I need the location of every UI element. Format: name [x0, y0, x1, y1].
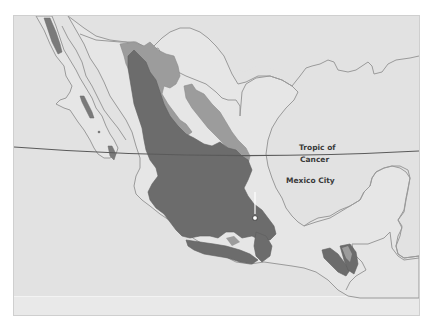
mexico-city-marker: [253, 216, 258, 221]
mexico-city-label: Mexico City: [286, 176, 335, 185]
tropic-label-line1: Tropic of: [299, 143, 336, 152]
mexico-relief-map: [0, 0, 434, 331]
tropic-label-line2: Cancer: [300, 155, 329, 164]
highland-baja-dot: [98, 131, 101, 134]
